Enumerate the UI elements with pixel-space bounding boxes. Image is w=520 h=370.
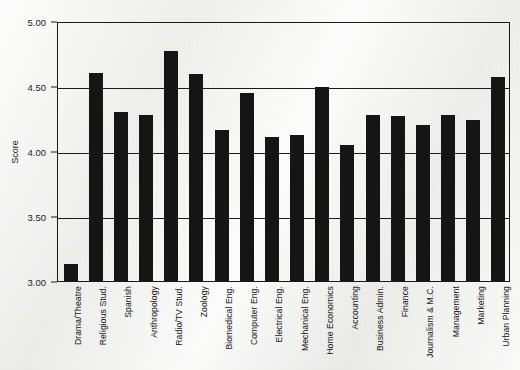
y-tick-label: 5.00	[28, 17, 47, 28]
bar	[240, 93, 254, 282]
x-tick-label: Journalism & M.C.	[425, 286, 435, 358]
bar	[315, 87, 329, 281]
x-tick-label: Computer Eng.	[249, 286, 259, 345]
x-axis-labels: Drama/TheatreReligious Stud.SpanishAnthr…	[57, 286, 510, 370]
bar	[416, 125, 430, 281]
x-tick-label: Business Admin.	[375, 286, 385, 351]
x-tick-label: Zoology	[199, 286, 209, 317]
bar	[164, 51, 178, 281]
y-axis-ticks: 5.004.504.003.503.00	[0, 0, 57, 370]
x-tick-label: Home Economics	[325, 286, 335, 355]
x-tick-label: Electrical Eng.	[274, 286, 284, 342]
bar	[366, 115, 380, 281]
bar-series	[58, 23, 509, 281]
x-tick-label: Radio/TV Stud.	[174, 286, 184, 346]
y-tick-label: 4.00	[28, 147, 47, 158]
x-tick-label: Spanish	[123, 286, 133, 318]
x-tick-label: Accounting	[350, 286, 360, 330]
x-tick-label: Mechanical Eng.	[300, 286, 310, 351]
bar	[466, 120, 480, 281]
x-tick-label: Urban Planning	[501, 286, 511, 347]
bar	[189, 74, 203, 281]
bar	[491, 77, 505, 281]
bar	[215, 130, 229, 281]
bar	[114, 112, 128, 281]
x-tick-label: Marketing	[476, 286, 486, 325]
y-tick-label: 3.00	[28, 277, 47, 288]
bar	[265, 137, 279, 281]
x-tick-label: Religious Stud.	[98, 286, 108, 345]
bar	[391, 116, 405, 281]
bar	[139, 115, 153, 281]
bar	[441, 115, 455, 281]
chart-figure: Score 5.004.504.003.503.00 Drama/Theatre…	[0, 0, 520, 370]
y-tick-label: 3.50	[28, 212, 47, 223]
bar	[89, 73, 103, 281]
x-tick-label: Drama/Theatre	[73, 286, 83, 345]
plot-area	[57, 22, 510, 282]
x-tick-label: Management	[451, 286, 461, 337]
x-tick-label: Biomedical Eng.	[224, 286, 234, 350]
bar	[340, 145, 354, 282]
x-tick-label: Anthropology	[149, 286, 159, 338]
y-tick-label: 4.50	[28, 82, 47, 93]
x-tick-label: Finance	[400, 286, 410, 317]
bar	[64, 264, 78, 281]
bar	[290, 135, 304, 281]
